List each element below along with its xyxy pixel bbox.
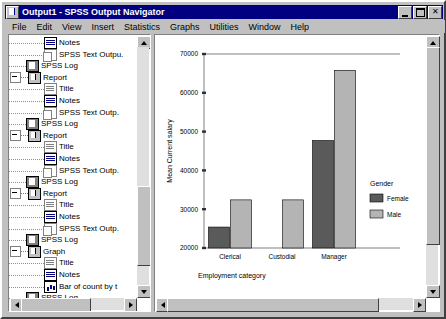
outline-item-spss-log[interactable]: SPSS Log (9, 176, 137, 188)
menu-item-view[interactable]: View (57, 21, 86, 33)
spss-document-icon (6, 6, 19, 19)
outline-item-label: Graph (43, 247, 65, 257)
outline-tree[interactable]: NotesSPSS Text Outpu.SPSS LogReportTitle… (9, 35, 137, 299)
tree-connector (9, 89, 44, 90)
outline-item-spss-text-outp[interactable]: SPSS Text Outp. (9, 107, 137, 119)
maximize-button[interactable] (413, 6, 427, 19)
outline-item-label: Report (43, 131, 67, 141)
contents-scroll-right-button[interactable] (413, 298, 426, 312)
y-tick-label: 30000 (180, 206, 198, 213)
outline-item-report[interactable]: Report (9, 130, 137, 142)
tree-connector (21, 251, 28, 253)
expander-collapse-icon[interactable] (10, 72, 21, 83)
outline-item-title[interactable]: Title (9, 199, 137, 211)
outline-item-label: Notes (59, 38, 80, 48)
outline-item-label: SPSS Log (41, 235, 78, 245)
outline-item-spss-text-outp[interactable]: SPSS Text Outp. (9, 223, 137, 235)
contents-vertical-thumb[interactable] (426, 47, 440, 245)
outline-item-spss-text-outpu[interactable]: SPSS Text Outpu. (9, 49, 137, 61)
outline-item-report[interactable]: Report (9, 72, 137, 84)
outline-item-label: Notes (59, 96, 80, 106)
scroll-left-arrow (15, 302, 19, 308)
menu-item-utilities[interactable]: Utilities (204, 21, 243, 33)
window-title: Output1 - SPSS Output Navigator (22, 7, 165, 17)
menu-item-help[interactable]: Help (285, 21, 314, 33)
outline-item-label: Title (59, 84, 74, 94)
outline-item-notes[interactable]: Notes (9, 269, 137, 281)
outline-horizontal-scrollbar[interactable] (10, 298, 137, 310)
text-output-icon (44, 107, 57, 119)
outline-scroll-down-button[interactable] (137, 285, 151, 298)
outline-item-title[interactable]: Title (9, 257, 137, 269)
outline-item-label: Notes (59, 270, 80, 280)
bar-manager-male (335, 70, 356, 248)
menu-item-graphs[interactable]: Graphs (165, 21, 205, 33)
outline-item-notes[interactable]: Notes (9, 95, 137, 107)
outline-item-graph[interactable]: Graph (9, 246, 137, 258)
outline-item-spss-log[interactable]: SPSS Log (9, 234, 137, 246)
outline-horizontal-thumb[interactable] (21, 298, 91, 312)
expander-collapse-icon[interactable] (10, 188, 21, 199)
y-tick-label: 40000 (180, 167, 198, 174)
chart-container[interactable]: 200003000040000500006000070000Mean Curre… (156, 36, 426, 299)
contents-pane[interactable]: 200003000040000500006000070000Mean Curre… (154, 34, 440, 312)
maximize-icon (414, 7, 426, 18)
notes-icon (44, 269, 57, 281)
legend-label-male: Male (387, 211, 401, 218)
outline-item-label: Report (43, 189, 67, 199)
x-tick-label: Manager (321, 253, 347, 261)
scroll-up-arrow (141, 41, 147, 45)
outline-item-spss-log[interactable]: SPSS Log (9, 60, 137, 72)
tree-connector (9, 263, 44, 264)
log-icon (26, 176, 39, 188)
outline-item-report[interactable]: Report (9, 188, 137, 200)
outline-vertical-scrollbar[interactable] (137, 36, 149, 298)
outline-item-notes[interactable]: Notes (9, 37, 137, 49)
text-output-icon (44, 49, 57, 61)
scroll-right-arrow (129, 302, 133, 308)
outline-item-label: Title (59, 142, 74, 152)
menu-item-edit[interactable]: Edit (32, 21, 58, 33)
legend-swatch-female (370, 194, 383, 202)
menu-item-window[interactable]: Window (243, 21, 285, 33)
outline-item-label: SPSS Text Outp. (59, 108, 119, 118)
outline-pane[interactable]: NotesSPSS Text Outpu.SPSS LogReportTitle… (8, 34, 151, 312)
tree-connector (9, 147, 44, 148)
y-tick-label: 60000 (180, 89, 198, 96)
menu-item-insert[interactable]: Insert (86, 21, 119, 33)
outline-item-notes[interactable]: Notes (9, 211, 137, 223)
contents-vertical-scrollbar[interactable] (426, 36, 438, 298)
outline-scroll-right-button[interactable] (124, 298, 137, 312)
tree-connector (21, 77, 28, 79)
tree-connector (9, 101, 44, 102)
contents-horizontal-thumb[interactable] (167, 298, 379, 312)
minimize-button[interactable] (398, 6, 412, 19)
y-tick-mark (202, 169, 206, 171)
menu-item-statistics[interactable]: Statistics (119, 21, 165, 33)
outline-item-title[interactable]: Title (9, 83, 137, 95)
outline-item-bar-of-count-by-t[interactable]: Bar of count by t (9, 281, 137, 293)
close-button[interactable]: ✕ (428, 6, 442, 19)
y-axis-title: Mean Current salary (166, 119, 174, 183)
bar-chart-icon (44, 281, 57, 293)
report-icon (28, 130, 41, 142)
tree-connector (9, 182, 26, 183)
title-bar[interactable]: Output1 - SPSS Output Navigator ✕ (5, 5, 443, 19)
outline-item-label: Notes (59, 154, 80, 164)
contents-scroll-down-button[interactable] (426, 285, 440, 298)
expander-collapse-icon[interactable] (10, 246, 21, 257)
outline-vertical-thumb[interactable] (137, 186, 151, 266)
contents-horizontal-scrollbar[interactable] (156, 298, 426, 310)
expander-collapse-icon[interactable] (10, 130, 21, 141)
bar-custodial-male (283, 200, 304, 248)
scroll-down-arrow (430, 290, 436, 294)
outline-item-label: Report (43, 73, 67, 83)
outline-item-notes[interactable]: Notes (9, 153, 137, 165)
graph-icon (28, 246, 41, 258)
outline-item-spss-text-outp[interactable]: SPSS Text Outp. (9, 165, 137, 177)
menu-item-file[interactable]: File (7, 21, 32, 33)
outline-item-label: SPSS Log (41, 119, 78, 129)
y-tick-mark (202, 53, 206, 55)
outline-item-spss-log[interactable]: SPSS Log (9, 118, 137, 130)
outline-item-title[interactable]: Title (9, 141, 137, 153)
